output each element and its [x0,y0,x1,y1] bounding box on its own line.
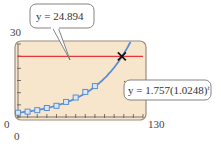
data-point [16,110,21,115]
callout-curve-text: y = 1.757(1.0248) [128,84,208,97]
y-axis-max-label: 30 [10,27,21,38]
data-point [54,103,59,108]
graph-window: y = 24.894 y = 1.757(1.0248)t [0,0,221,148]
svg-text:y = 1.757(1.0248)t: y = 1.757(1.0248)t [128,84,211,97]
x-axis-max-label: 130 [148,119,165,130]
callout-exponential: y = 1.757(1.0248)t [124,80,211,100]
data-point [92,84,97,89]
data-point [25,109,30,114]
data-point [83,89,88,94]
data-point [44,105,49,110]
data-point [35,108,40,113]
data-point [64,99,69,104]
x-axis-min-label: 0 [14,131,20,142]
callout-line-text: y = 24.894 [36,10,84,22]
data-point [73,95,78,100]
y-axis-min-label: 0 [4,119,10,130]
